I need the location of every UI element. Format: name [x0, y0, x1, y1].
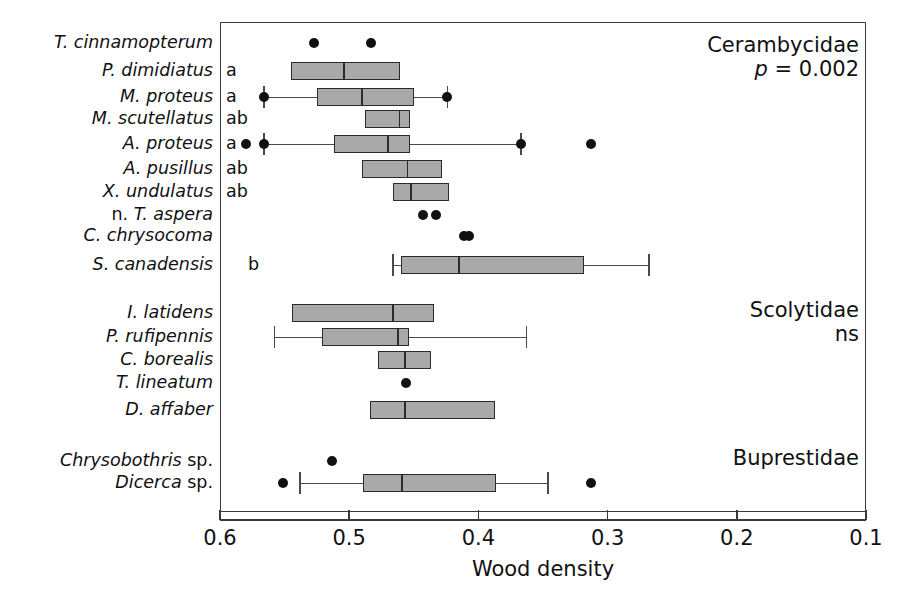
outlier-point	[586, 478, 596, 488]
x-axis-title: Wood density	[220, 557, 866, 581]
category-label-dicerca: Dicerca sp.	[0, 474, 213, 492]
family-name: Cerambycidae	[707, 34, 859, 58]
category-label-t--cinnamopterum: T. cinnamopterum	[0, 34, 213, 52]
category-label-a--pusillus: A. pusillus	[0, 160, 213, 178]
outlier-point	[418, 210, 428, 220]
box	[291, 62, 400, 80]
whisker-cap	[299, 472, 300, 494]
median-line	[387, 135, 389, 153]
category-label-chrysobothris: Chrysobothris sp.	[0, 452, 213, 470]
outlier-point	[241, 139, 251, 149]
family-name: Scolytidae	[750, 299, 859, 323]
category-label-x--undulatus: X. undulatus	[0, 183, 213, 201]
median-line	[410, 183, 412, 201]
significance-letter: ab	[226, 160, 248, 178]
box	[363, 474, 496, 492]
category-label-p--rufipennis: P. rufipennis	[0, 328, 213, 346]
box	[401, 256, 584, 274]
significance-letter: ab	[226, 110, 248, 128]
category-label-m--scutellatus: M. scutellatus	[0, 110, 213, 128]
x-tick-0.5	[348, 510, 350, 520]
median-line	[361, 88, 363, 106]
x-tick-0.1	[865, 510, 867, 520]
family-significance: p = 0.002	[707, 58, 859, 82]
whisker-cap	[648, 254, 649, 276]
x-tick-0.6	[219, 510, 221, 520]
median-line	[392, 304, 394, 322]
boxplot-figure: 0.60.50.40.30.20.1 Wood density T. cinna…	[0, 0, 899, 603]
outlier-point	[586, 139, 596, 149]
category-label-a--proteus: A. proteus	[0, 135, 213, 153]
category-label-d--affaber: D. affaber	[0, 401, 213, 419]
x-axis-line	[220, 519, 866, 521]
significance-letter: a	[226, 62, 237, 80]
x-tick-0.4	[478, 510, 480, 520]
box	[362, 160, 442, 178]
category-label-c--chrysocoma: C. chrysocoma	[0, 227, 213, 245]
box	[334, 135, 410, 153]
outlier-point	[431, 210, 441, 220]
significance-letter: b	[248, 256, 259, 274]
x-tick-label-0.6: 0.6	[180, 526, 260, 550]
x-tick-label-0.5: 0.5	[309, 526, 389, 550]
median-line	[407, 160, 409, 178]
category-label-t--lineatum: T. lineatum	[0, 374, 213, 392]
outlier-point	[401, 378, 411, 388]
box	[292, 304, 434, 322]
box	[393, 183, 449, 201]
category-label-c--borealis: C. borealis	[0, 351, 213, 369]
box	[317, 88, 414, 106]
x-tick-label-0.3: 0.3	[568, 526, 648, 550]
family-label-buprestidae: Buprestidae	[733, 447, 859, 471]
whisker-cap	[526, 326, 527, 348]
x-tick-label-0.1: 0.1	[826, 526, 899, 550]
x-tick-0.3	[607, 510, 609, 520]
median-line	[397, 328, 399, 346]
significance-letter: a	[226, 135, 237, 153]
category-label-t--aspera: n. T. aspera	[0, 206, 213, 224]
x-tick-label-0.2: 0.2	[697, 526, 777, 550]
significance-letter: a	[226, 88, 237, 106]
category-label-p--dimidiatus: P. dimidiatus	[0, 62, 213, 80]
box	[365, 110, 410, 128]
family-label-scolytidae: Scolytidaens	[750, 299, 859, 346]
median-line	[401, 474, 403, 492]
family-label-cerambycidae: Cerambycidaep = 0.002	[707, 34, 859, 81]
family-significance: ns	[750, 323, 859, 347]
category-label-s--canadensis: S. canadensis	[0, 256, 213, 274]
outlier-point	[259, 92, 269, 102]
significance-letter: ab	[226, 183, 248, 201]
family-name: Buprestidae	[733, 447, 859, 471]
whisker-cap	[274, 326, 275, 348]
outlier-point	[259, 139, 269, 149]
median-line	[404, 401, 406, 419]
median-line	[458, 256, 460, 274]
category-label-i--latidens: I. latidens	[0, 304, 213, 322]
whisker-cap	[392, 254, 393, 276]
x-tick-0.2	[736, 510, 738, 520]
median-line	[404, 351, 406, 369]
median-line	[399, 110, 401, 128]
box	[322, 328, 409, 346]
median-line	[343, 62, 345, 80]
outlier-point	[516, 139, 526, 149]
x-tick-label-0.4: 0.4	[438, 526, 518, 550]
whisker-cap	[547, 472, 548, 494]
category-label-m--proteus: M. proteus	[0, 88, 213, 106]
box	[370, 401, 495, 419]
